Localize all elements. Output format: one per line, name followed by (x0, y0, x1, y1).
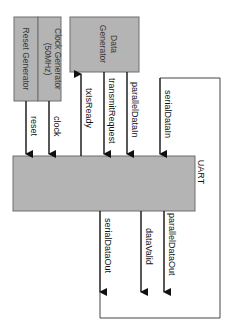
clock-signal-label: clock (52, 116, 62, 137)
data-generator-label-line1: Data (109, 35, 119, 53)
serial-data-out-label: serialDataOut (103, 218, 113, 274)
clock-generator-frequency: (50MHz) (43, 43, 53, 76)
reset-signal-label: reset (29, 116, 39, 137)
clock-generator-label: Clock Generator (53, 28, 63, 90)
parallel-data-in-label: parallelDataIn (130, 82, 140, 138)
clock-generator-block: Clock Generator (50MHz) (38, 17, 63, 101)
reset-signal: reset (26, 101, 39, 154)
tx-is-ready-label: txIsReady (84, 88, 94, 129)
data-generator-label-line2: Generator (98, 25, 108, 63)
reset-generator-block: Reset Generator (14, 17, 38, 101)
data-generator-block: Data Generator (70, 17, 139, 72)
data-valid-signal: dataValid (141, 211, 154, 292)
parallel-data-in-signal: parallelDataIn (127, 72, 140, 154)
serial-data-out-signal: serialDataOut (100, 211, 220, 318)
uart-block-diagram: Reset Generator Clock Generator (50MHz) … (0, 0, 232, 334)
clock-signal: clock (49, 101, 62, 154)
transmit-request-signal: transmitRequest (104, 72, 117, 154)
parallel-data-out-label: parallelDataOut (167, 213, 177, 276)
tx-is-ready-signal: txIsReady (81, 74, 94, 156)
uart-label: UART (196, 160, 206, 185)
reset-generator-label: Reset Generator (21, 28, 31, 91)
parallel-data-out-signal: parallelDataOut (164, 211, 177, 292)
transmit-request-label: transmitRequest (107, 78, 117, 144)
uart-block: UART (13, 156, 206, 211)
data-valid-label: dataValid (144, 228, 154, 265)
serial-data-in-label: serialDataIn (163, 90, 173, 138)
